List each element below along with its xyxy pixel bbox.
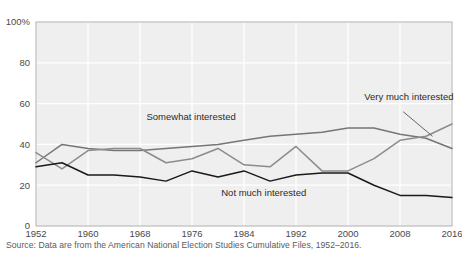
x-tick-label: 1960 (77, 228, 98, 239)
x-tick-label: 2008 (389, 228, 410, 239)
y-tick-label: 100% (6, 16, 31, 27)
y-tick-label: 20 (19, 180, 30, 191)
source-note: Source: Data are from the American Natio… (6, 240, 362, 250)
y-tick-label: 80 (19, 57, 30, 68)
x-tick-label: 1968 (129, 228, 150, 239)
x-tick-label: 2016 (441, 228, 462, 239)
y-axis-tick-labels: 020406080100% (6, 16, 31, 231)
x-tick-label: 1992 (285, 228, 306, 239)
x-tick-label: 1976 (181, 228, 202, 239)
series-annotation: Not much interested (221, 187, 306, 198)
series-annotation: Very much interested (364, 91, 453, 102)
x-axis-tick-labels: 195219601968197619841992200020082016 (25, 228, 462, 239)
x-tick-label: 1952 (25, 228, 46, 239)
y-tick-label: 40 (19, 139, 30, 150)
x-tick-label: 2000 (337, 228, 358, 239)
chart-figure: 020406080100% 19521960196819761984199220… (0, 0, 462, 262)
y-tick-label: 60 (19, 98, 30, 109)
interest-in-elections-line-chart: 020406080100% 19521960196819761984199220… (0, 0, 462, 262)
x-tick-label: 1984 (233, 228, 254, 239)
series-annotation: Somewhat interested (147, 111, 236, 122)
